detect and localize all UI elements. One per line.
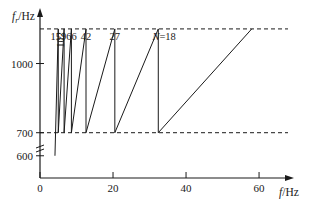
ramp-label: 66 bbox=[66, 31, 77, 42]
y-axis-title: fr/Hz bbox=[12, 10, 35, 25]
ramp-label: 102 bbox=[55, 32, 66, 48]
curve-segment bbox=[86, 29, 115, 133]
y-tick-label: 600 bbox=[17, 150, 34, 162]
x-tick-label: 60 bbox=[254, 182, 266, 194]
ramp-label: 42 bbox=[81, 31, 92, 42]
x-axis-title: f/Hz bbox=[279, 186, 299, 199]
curve-segment bbox=[71, 29, 86, 133]
x-tick-label: 0 bbox=[37, 182, 43, 194]
ramp-label: N=18 bbox=[151, 31, 175, 42]
annotation-group: 159102664227N=18 bbox=[50, 31, 175, 48]
x-tick-label: 20 bbox=[108, 182, 120, 194]
x-axis-title-unit: /Hz bbox=[282, 186, 299, 198]
x-axis-arrow bbox=[285, 175, 294, 181]
y-tick-label: 700 bbox=[17, 127, 34, 139]
y-axis-arrow bbox=[37, 8, 43, 17]
curve-segment bbox=[115, 29, 158, 133]
x-tick-group: 0204060 bbox=[37, 172, 265, 194]
data-curve-group bbox=[55, 29, 252, 156]
curve-segment bbox=[158, 29, 251, 133]
y-tick-group: 6007001000 bbox=[11, 58, 44, 162]
x-tick-label: 40 bbox=[181, 182, 193, 194]
chart-figure: 6007001000 0204060 159102664227N=18 fr/H… bbox=[0, 0, 317, 201]
y-axis-title-unit: /Hz bbox=[18, 10, 35, 22]
ramp-label: 27 bbox=[110, 31, 121, 42]
sawtooth-resonance-chart: 6007001000 0204060 159102664227N=18 fr/H… bbox=[0, 0, 317, 201]
reference-lines-group bbox=[40, 29, 288, 133]
y-tick-label: 1000 bbox=[11, 58, 34, 70]
